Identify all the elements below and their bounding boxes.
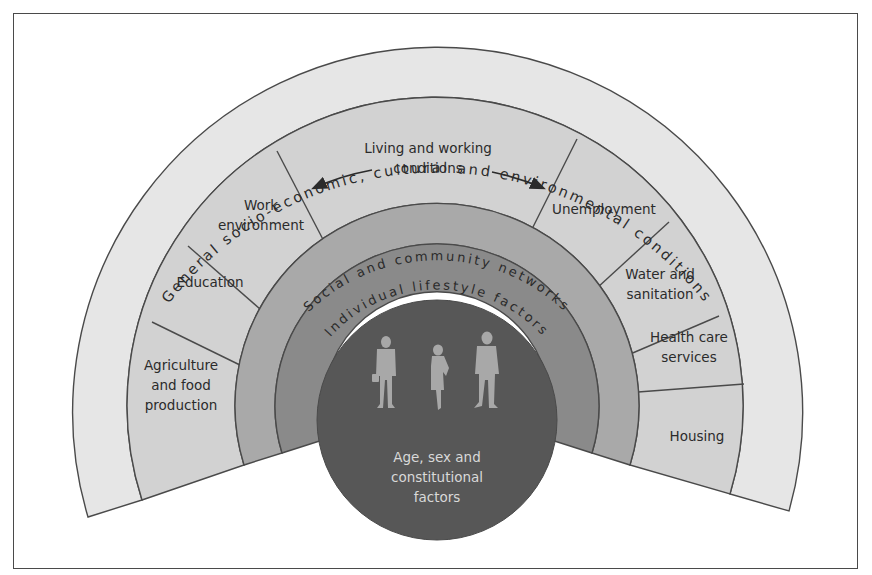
svg-text:Housing: Housing [670, 428, 725, 444]
svg-text:Education: Education [176, 274, 243, 290]
segment-housing: Housing [670, 428, 725, 444]
segment-agriculture: Agricultureand foodproduction [144, 357, 218, 413]
segment-unemployment: Unemployment [552, 201, 656, 217]
svg-text:Unemployment: Unemployment [552, 201, 656, 217]
segment-education: Education [176, 274, 243, 290]
svg-text:Agricultureand foodproduction: Agricultureand foodproduction [144, 357, 218, 413]
health-determinants-diagram: General socio-economic, cultural and env… [0, 0, 872, 575]
